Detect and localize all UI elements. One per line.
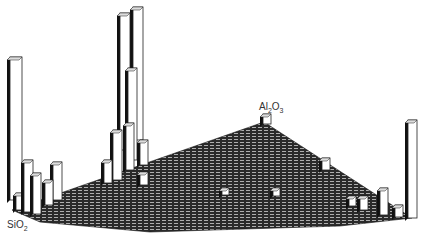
sio2-corner-label: SiO2: [7, 219, 28, 232]
bar-center-mid-3: [123, 123, 134, 173]
bar-right-corner-tall: [405, 120, 417, 221]
bar-sio2-near-2: [30, 173, 41, 217]
ternary-base-surface: [12, 122, 412, 232]
al2o3-corner-label: Al2O3: [259, 101, 284, 114]
bar-sio2-corner-tall: [7, 57, 22, 203]
ternary-histogram-figure: [0, 0, 427, 241]
bar-sio2-near-5: [42, 180, 53, 208]
bar-center-low-1: [137, 140, 148, 168]
bar-center-mid-4: [101, 160, 112, 186]
bar-right-near-1: [377, 188, 388, 218]
